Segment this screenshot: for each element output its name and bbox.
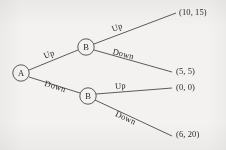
node-b-lower-label: B <box>85 91 91 101</box>
branch-b2-up <box>96 88 172 94</box>
branch-group <box>29 13 176 136</box>
payoff-down-up: (0, 0) <box>176 82 195 92</box>
node-b-upper: B <box>78 39 94 55</box>
node-b-upper-label: B <box>83 42 89 52</box>
payoff-down-down: (6, 20) <box>176 129 199 139</box>
payoff-up-up: (10, 15) <box>179 7 207 17</box>
payoff-up-down: (5, 5) <box>176 66 195 76</box>
branch-b1-up <box>94 13 176 44</box>
node-a: A <box>13 65 29 81</box>
game-tree-figure: A B B Up Down Up Down Up Down (10, 15) (… <box>0 0 226 150</box>
node-b-lower: B <box>80 88 96 104</box>
edge-label-b-lower-up: Up <box>115 80 126 91</box>
node-a-label: A <box>18 68 25 78</box>
